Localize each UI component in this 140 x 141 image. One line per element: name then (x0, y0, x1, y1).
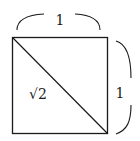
right-brace-top (116, 41, 131, 78)
right-brace-bottom (116, 105, 131, 134)
right-side-label: 1 (116, 85, 125, 101)
diagonal-line (13, 38, 108, 134)
top-side-label: 1 (56, 12, 65, 28)
top-brace-left (17, 14, 44, 30)
diagonal-label: √2 (29, 86, 47, 102)
unit-square-diagram: 1 1 √2 (0, 0, 140, 141)
top-brace-right (75, 14, 100, 30)
